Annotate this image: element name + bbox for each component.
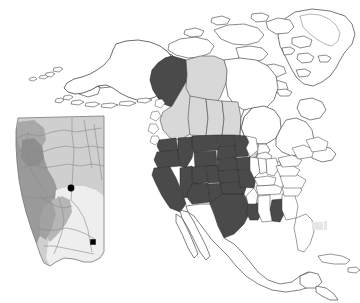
inset-marker-site-south[interactable] bbox=[90, 239, 96, 245]
map-canvas bbox=[0, 0, 360, 303]
region-montana bbox=[192, 135, 218, 152]
region-utah bbox=[192, 166, 208, 184]
region-manitoba bbox=[222, 101, 241, 136]
region-alberta bbox=[188, 96, 208, 136]
map-figure: Alberta North America distribution map w… bbox=[0, 0, 360, 303]
region-prairie-provinces bbox=[188, 96, 241, 136]
region-oregon bbox=[154, 150, 180, 168]
region-kentucky bbox=[254, 176, 276, 186]
region-iowa bbox=[236, 157, 252, 170]
faint-watermark bbox=[312, 221, 327, 230]
region-saskatchewan bbox=[206, 99, 224, 136]
region-south-dakota bbox=[217, 146, 236, 159]
region-wyoming bbox=[194, 151, 217, 167]
region-washington bbox=[157, 138, 178, 152]
region-kansas bbox=[218, 170, 240, 183]
inset-marker-site-north[interactable] bbox=[68, 185, 75, 192]
region-north-dakota bbox=[216, 135, 235, 147]
region-tennessee bbox=[256, 185, 282, 195]
region-nebraska bbox=[217, 158, 238, 171]
